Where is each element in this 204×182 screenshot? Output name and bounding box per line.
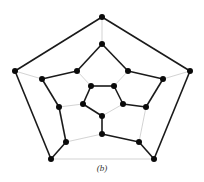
vertex-O2 <box>151 156 157 162</box>
cycle-edge-I1-I2 <box>114 86 123 104</box>
cycle-edge-M4-M5 <box>102 134 139 142</box>
cycle-edge-O0-O1 <box>102 17 190 71</box>
vertex-M9 <box>74 68 80 74</box>
vertices-layer <box>12 14 193 162</box>
cycle-edge-M8-M9 <box>42 71 77 79</box>
vertex-O3 <box>48 156 54 162</box>
edge-M3-M4 <box>139 107 146 142</box>
vertex-M2 <box>160 76 166 82</box>
cycle-edge-M3-I2 <box>123 104 146 107</box>
cycle-edge-M1-M2 <box>128 71 163 79</box>
edge-I2-I3 <box>102 104 123 116</box>
vertex-M1 <box>125 68 131 74</box>
figure-caption: (b) <box>0 163 204 173</box>
vertex-M7 <box>56 104 62 110</box>
edge-M7-I4 <box>59 104 83 107</box>
cycle-edge-M9-M0 <box>77 44 102 71</box>
vertex-M8 <box>39 76 45 82</box>
edge-O4-M8 <box>15 71 42 79</box>
cycle-edge-M7-M8 <box>42 79 59 107</box>
cycle-edge-O3-M6 <box>51 142 66 159</box>
vertex-O4 <box>12 68 18 74</box>
edge-M5-M6 <box>66 134 102 142</box>
vertex-I0 <box>88 83 94 89</box>
edges-layer <box>15 17 190 159</box>
edge-M9-I0 <box>77 71 91 86</box>
vertex-M0 <box>99 41 105 47</box>
cycle-edge-I3-I4 <box>83 104 102 116</box>
cycle-edge-M6-M7 <box>59 107 66 142</box>
cycle-edge-O4-O0 <box>15 17 102 71</box>
vertex-M3 <box>143 104 149 110</box>
cycle-edge-M0-M1 <box>102 44 128 71</box>
vertex-I3 <box>99 113 105 119</box>
vertex-I1 <box>111 83 117 89</box>
edge-O1-M2 <box>163 71 190 79</box>
vertex-O0 <box>99 14 105 20</box>
vertex-I4 <box>80 101 86 107</box>
dodecahedron-graph <box>0 0 204 182</box>
vertex-M6 <box>63 139 69 145</box>
vertex-O1 <box>187 68 193 74</box>
cycle-edge-M2-M3 <box>146 79 163 107</box>
edge-M1-I1 <box>114 71 128 86</box>
vertex-M4 <box>136 139 142 145</box>
vertex-I2 <box>120 101 126 107</box>
cycle-edge-O2-M4 <box>139 142 154 159</box>
vertex-M5 <box>99 131 105 137</box>
